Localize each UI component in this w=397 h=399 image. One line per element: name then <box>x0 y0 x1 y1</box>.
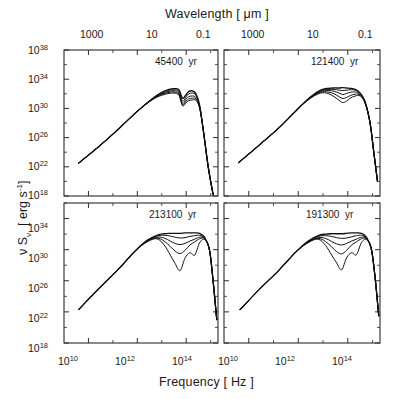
panel-0 <box>64 50 218 196</box>
sed-curve <box>239 91 378 182</box>
curves <box>239 88 378 182</box>
sed-curve <box>79 92 213 195</box>
sed-curve <box>239 93 378 182</box>
sed-curve <box>79 91 213 195</box>
sed-curve <box>79 239 217 320</box>
sed-curve <box>79 233 217 320</box>
curves <box>79 89 213 195</box>
sed-curve <box>240 235 379 316</box>
panel-1 <box>224 50 380 196</box>
plot-layer <box>0 0 397 399</box>
panel-frame <box>64 50 218 196</box>
sed-curve <box>240 237 379 316</box>
sed-curve <box>79 93 213 195</box>
curves <box>240 233 379 316</box>
sed-curve <box>79 238 217 320</box>
sed-curve <box>79 235 217 320</box>
sed-curve <box>240 239 379 316</box>
sed-curve <box>79 237 217 320</box>
sed-curve <box>240 233 379 316</box>
sed-curve <box>239 89 378 181</box>
panel-2 <box>64 203 218 343</box>
curves <box>79 233 217 320</box>
sed-curve <box>239 92 378 182</box>
sed-curve <box>240 238 379 316</box>
panel-frame <box>64 203 218 343</box>
panel-frame <box>224 50 380 196</box>
sed-curve <box>79 90 213 195</box>
sed-curve <box>239 88 378 182</box>
panel-frame <box>224 203 380 343</box>
panel-3 <box>224 203 380 343</box>
figure-canvas: Wavelength [ μm ] Frequency [ Hz ] ν Sν … <box>0 0 397 399</box>
